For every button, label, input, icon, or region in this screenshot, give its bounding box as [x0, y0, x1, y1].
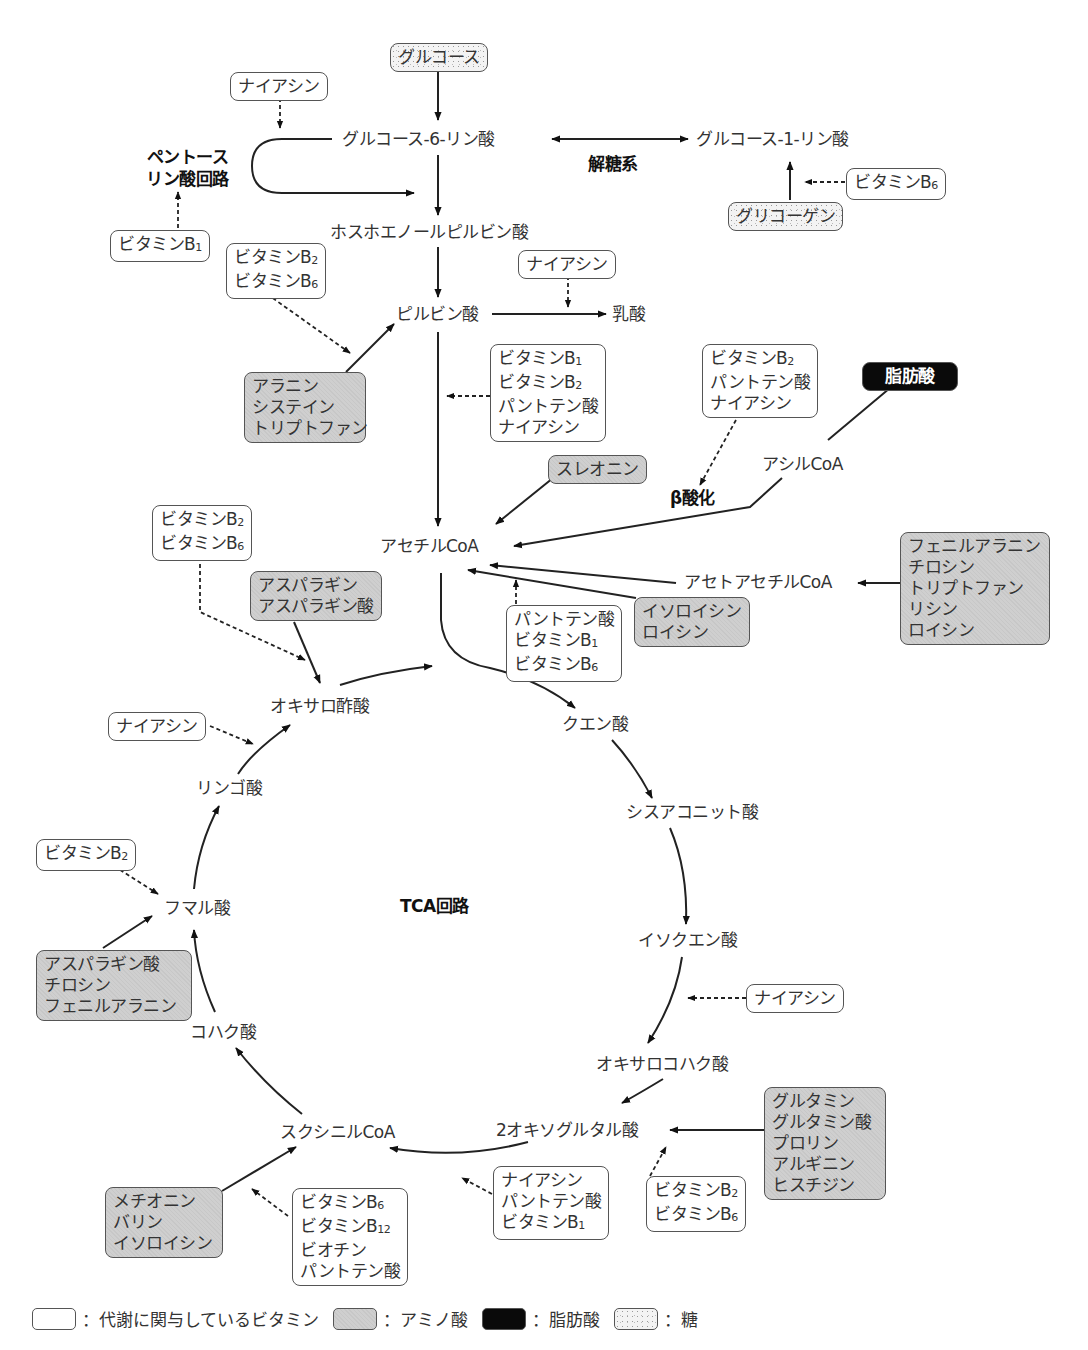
- vitamin-box-beta-oxidation: ビタミンB2 パントテン酸 ナイアシン: [702, 344, 818, 418]
- vitamin-label: ナイアシン: [116, 716, 198, 736]
- amino-label: ロイシン: [908, 620, 1042, 641]
- amino-label: アラニン: [252, 376, 358, 397]
- vitamin-line: ビタミンB1: [501, 1212, 601, 1236]
- amino-box-threonine: スレオニン: [548, 455, 647, 484]
- vitamin-subscript: 1: [578, 1219, 585, 1232]
- vitamin-label: パントテン酸: [501, 1191, 601, 1212]
- vitamin-box-b1-pentose: ビタミンB1: [110, 230, 210, 262]
- amino-label: リシン: [908, 599, 1042, 620]
- vitamin-line: ビタミンB2: [234, 247, 318, 271]
- vitamin-subscript: 6: [377, 1199, 384, 1212]
- vitamin-subscript: 2: [237, 516, 244, 529]
- metabolite-acetoacetyl-coa: アセトアセチルCoA: [684, 572, 832, 592]
- pentose-line-2: リン酸回路: [146, 168, 229, 190]
- vitamin-box-b6-glycogen: ビタミンB6: [846, 168, 946, 200]
- vitamin-label: ビタミンB: [300, 1216, 377, 1236]
- amino-label: チロシン: [908, 557, 1042, 578]
- fat-box-fatty-acid: 脂肪酸: [862, 362, 958, 391]
- metabolite-succinate: コハク酸: [190, 1022, 256, 1042]
- vitamin-line: ビタミンB2: [654, 1180, 738, 1204]
- vitamin-label: ビタミンB: [654, 1180, 731, 1200]
- amino-label: システイン: [252, 397, 358, 418]
- vitamin-line: ビタミンB6: [300, 1192, 400, 1216]
- amino-label: メチオニン: [113, 1191, 215, 1212]
- amino-label: アスパラギン酸: [258, 596, 374, 617]
- vitamin-line: ビタミンB6: [514, 654, 614, 678]
- vitamin-box-succinyl-coa: ビタミンB6 ビタミンB12 ビオチン パントテン酸: [292, 1188, 408, 1286]
- vitamin-box-niacin-lactate: ナイアシン: [518, 250, 616, 279]
- metabolite-succinyl-coa: スクシニルCoA: [280, 1122, 395, 1142]
- vitamin-box-niacin-pentose: ナイアシン: [230, 72, 328, 101]
- metabolite-acetyl-coa: アセチルCoA: [380, 536, 478, 556]
- vitamin-subscript: 2: [787, 355, 794, 368]
- vitamin-label: ビタミンB: [498, 348, 575, 368]
- fatty-acid-label: 脂肪酸: [885, 366, 935, 386]
- vitamin-line: ビタミンB6: [654, 1204, 738, 1228]
- metabolite-pyruvate: ピルビン酸: [396, 304, 479, 324]
- vitamin-subscript: 6: [591, 661, 598, 674]
- metabolite-oxalosuccinate: オキサロコハク酸: [596, 1054, 728, 1074]
- amino-label: グルタミン: [772, 1091, 878, 1112]
- vitamin-label: ナイアシン: [754, 988, 836, 1008]
- legend-swatch-fat: [482, 1308, 526, 1330]
- vitamin-subscript: 1: [591, 637, 598, 650]
- vitamin-line: ビタミンB6: [160, 533, 244, 557]
- legend-label-amino: ：アミノ酸: [383, 1306, 468, 1331]
- vitamin-label: ビタミンB: [160, 509, 237, 529]
- amino-label: イソロイシン: [113, 1233, 215, 1254]
- vitamin-box-pdh: ビタミンB1 ビタミンB2 パントテン酸 ナイアシン: [490, 344, 606, 442]
- vitamin-label: ビタミンB: [501, 1212, 578, 1232]
- vitamin-subscript: 6: [931, 179, 938, 192]
- glycogen-label: グリコーゲン: [736, 206, 835, 226]
- metabolite-glucose-6-phosphate: グルコース-6-リン酸: [342, 129, 495, 149]
- amino-label: バリン: [113, 1212, 215, 1233]
- amino-label: アスパラギン酸: [44, 954, 184, 975]
- vitamin-label: ビタミンB: [234, 271, 311, 291]
- vitamin-box-b2-fumarate: ビタミンB2: [36, 839, 136, 871]
- vitamin-box-niacin-malate: ナイアシン: [108, 712, 206, 741]
- vitamin-box-acetyl-leucine: パントテン酸 ビタミンB1 ビタミンB6: [506, 605, 622, 682]
- amino-label: プロリン: [772, 1133, 878, 1154]
- vitamin-label: ナイアシン: [238, 76, 320, 96]
- vitamin-label: ナイアシン: [498, 417, 598, 438]
- amino-label: トリプトファン: [252, 418, 358, 439]
- metabolite-lactate: 乳酸: [612, 304, 645, 324]
- sugar-box-glycogen: グリコーゲン: [728, 202, 843, 231]
- vitamin-subscript: 2: [575, 379, 582, 392]
- vitamin-label: ナイアシン: [526, 254, 608, 274]
- vitamin-box-b2-b6-pyruvate: ビタミンB2 ビタミンB6: [226, 243, 326, 299]
- vitamin-label: ビオチン: [300, 1240, 400, 1261]
- vitamin-subscript: 6: [731, 1211, 738, 1224]
- legend-swatch-vitamin: [32, 1308, 76, 1330]
- vitamin-subscript: 6: [237, 540, 244, 553]
- vitamin-label: ビタミンB: [160, 533, 237, 553]
- vitamin-line: ビタミンB2: [160, 509, 244, 533]
- vitamin-line: ビタミンB1: [514, 630, 614, 654]
- amino-box-ile-leu: イソロイシン ロイシン: [634, 597, 750, 647]
- vitamin-box-b2-b6-glutamate: ビタミンB2 ビタミンB6: [646, 1176, 746, 1232]
- vitamin-box-b2-b6-oxaloacetate: ビタミンB2 ビタミンB6: [152, 505, 252, 561]
- vitamin-box-niacin-isocitrate: ナイアシン: [746, 984, 844, 1013]
- amino-label: スレオニン: [556, 459, 639, 479]
- vitamin-label: パントテン酸: [710, 372, 810, 393]
- sugar-box-glucose: グルコース: [390, 43, 488, 72]
- amino-label: ヒスチジン: [772, 1175, 878, 1196]
- amino-box-asp-tyr-phe: アスパラギン酸 チロシン フェニルアラニン: [36, 950, 192, 1021]
- amino-label: グルタミン酸: [772, 1112, 878, 1133]
- amino-label: ロイシン: [642, 622, 742, 643]
- label-glycolysis: 解糖系: [588, 154, 638, 174]
- metabolite-2-oxoglutarate: 2オキソグルタル酸: [496, 1120, 638, 1140]
- vitamin-subscript: 2: [311, 254, 318, 267]
- vitamin-label: パントテン酸: [300, 1261, 400, 1282]
- vitamin-line: ビタミンB1: [498, 348, 598, 372]
- vitamin-subscript: 1: [195, 241, 202, 254]
- vitamin-line: ビタミンB2: [498, 372, 598, 396]
- pentose-line-1: ペントース: [146, 146, 229, 168]
- vitamin-label: ビタミンB: [654, 1204, 731, 1224]
- label-tca-cycle: TCA回路: [400, 896, 469, 916]
- amino-label: イソロイシン: [642, 601, 742, 622]
- amino-box-phe-tyr-trp-lys-leu: フェニルアラニン チロシン トリプトファン リシン ロイシン: [900, 532, 1050, 645]
- metabolite-fumarate: フマル酸: [164, 898, 230, 918]
- vitamin-label: ビタミンB: [44, 843, 121, 863]
- legend-label-fat: ：脂肪酸: [532, 1306, 600, 1331]
